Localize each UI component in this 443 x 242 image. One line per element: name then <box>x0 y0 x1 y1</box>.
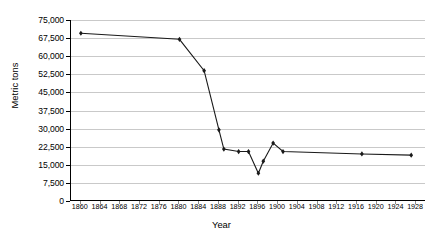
y-tick-label: 22,500 <box>2 143 64 152</box>
x-tick-mark <box>159 201 160 204</box>
y-tick-label: 0 <box>2 197 64 206</box>
x-tick-mark <box>80 201 81 204</box>
x-tick-mark <box>198 201 199 204</box>
x-tick-mark <box>139 201 140 204</box>
y-tick-label: 30,000 <box>2 125 64 134</box>
y-tick-label: 67,500 <box>2 34 64 43</box>
y-tick-label: 37,500 <box>2 107 64 116</box>
y-tick-label: 60,000 <box>2 52 64 61</box>
x-tick-mark <box>415 201 416 204</box>
plot-area <box>70 20 425 201</box>
x-tick-mark <box>376 201 377 204</box>
x-tick-mark <box>395 201 396 204</box>
x-tick-mark <box>100 201 101 204</box>
y-tick-label: 7,500 <box>2 179 64 188</box>
x-tick-mark <box>178 201 179 204</box>
y-tick-label: 15,000 <box>2 161 64 170</box>
x-tick-mark <box>119 201 120 204</box>
data-point-marker <box>217 127 221 132</box>
x-tick-mark <box>356 201 357 204</box>
y-tick-label: 52,500 <box>2 70 64 79</box>
x-tick-mark <box>297 201 298 204</box>
x-axis-title: Year <box>0 219 443 230</box>
y-tick-mark <box>66 201 70 202</box>
data-point-marker <box>237 149 241 154</box>
x-tick-mark <box>277 201 278 204</box>
x-tick-mark <box>317 201 318 204</box>
y-tick-label: 45,000 <box>2 88 64 97</box>
chart-container: Metric tons 07,50015,00022,50030,00037,5… <box>0 0 443 242</box>
x-tick-mark <box>257 201 258 204</box>
x-tick-mark <box>218 201 219 204</box>
data-series-line <box>71 20 426 201</box>
data-point-marker <box>409 153 413 158</box>
data-point-marker <box>79 31 83 36</box>
x-tick-mark <box>336 201 337 204</box>
y-tick-label: 75,000 <box>2 16 64 25</box>
data-point-marker <box>222 147 226 152</box>
x-tick-label: 1928 <box>400 203 430 210</box>
x-tick-mark <box>238 201 239 204</box>
data-point-marker <box>360 151 364 156</box>
